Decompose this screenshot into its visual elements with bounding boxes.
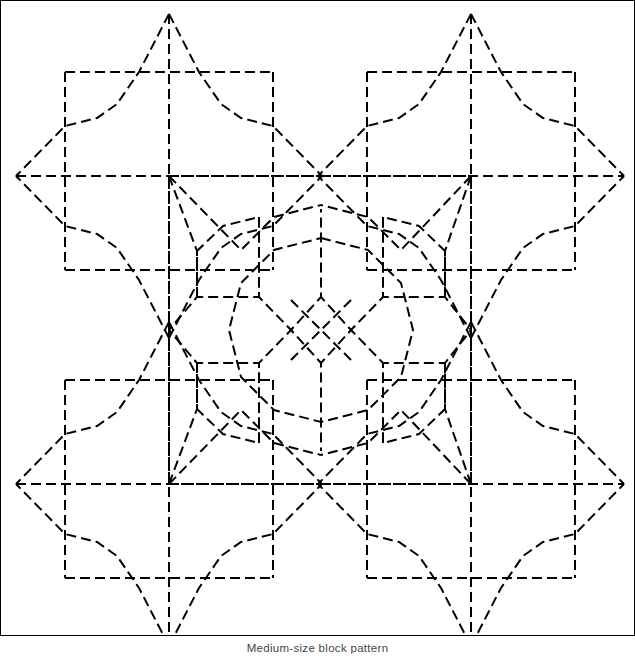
rosette-lobe-lower <box>259 330 383 451</box>
figure-caption: Medium-size block pattern <box>0 642 635 654</box>
rosette-lobe-upper <box>259 209 383 330</box>
rosette-petal-top-left <box>197 217 259 297</box>
block-pattern-drawing <box>1 1 635 637</box>
figure-border-frame <box>0 0 635 636</box>
pattern-strokes <box>16 14 624 637</box>
rosette-petal-bottom-right <box>383 363 445 443</box>
rosette-petal-top-right <box>383 217 445 297</box>
rosette-petal-bottom-left <box>197 363 259 443</box>
center-crossing <box>291 300 351 360</box>
figure-page: Medium-size block pattern <box>0 0 635 661</box>
